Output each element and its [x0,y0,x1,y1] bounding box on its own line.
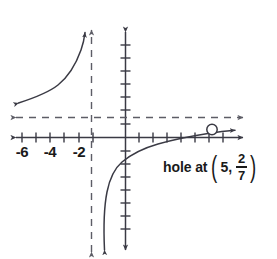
x-tick-label-neg2: -2 [69,143,89,160]
hole-annotation: hole at ( 5, 2 7 ) [163,152,258,182]
x-tick-label-neg6: -6 [12,143,32,160]
fraction-denominator: 7 [236,169,247,182]
hole-coordinate-pair: 5, 2 7 [219,152,248,182]
fraction-numerator: 2 [236,152,247,165]
rational-function-graph-figure: -6 -4 -2 hole at ( 5, 2 7 ) [0,0,277,259]
hole-annotation-text: hole at [163,159,207,175]
y-axis [121,32,131,250]
open-paren-glyph: ( [211,154,217,180]
function-curve [19,33,236,251]
close-paren-glyph: ) [250,154,256,180]
hole-x-value: 5, [220,159,232,175]
graph-canvas [0,0,277,259]
hole-open-circle-marker [207,124,217,134]
x-tick-label-neg4: -4 [40,143,60,160]
hole-comma: , [228,159,232,175]
left-branch-path [19,33,86,104]
hole-y-fraction: 2 7 [236,152,247,182]
